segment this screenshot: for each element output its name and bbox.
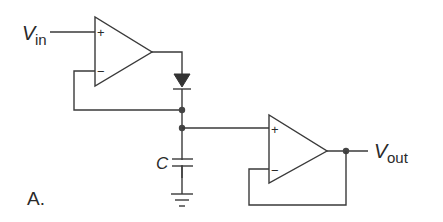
opamp-2-feedback-wire (249, 151, 346, 205)
vin-label-sub: in (35, 31, 47, 48)
vout-label-sub: out (387, 149, 409, 166)
opamp-2: + − (269, 115, 327, 183)
figure-label: A. (27, 188, 45, 209)
diode-icon (173, 74, 191, 89)
opamp-1: + − (95, 17, 152, 86)
opamp-2-plus: + (271, 122, 279, 137)
junction-dot-feedback (179, 107, 185, 113)
opamp-1-plus: + (97, 25, 105, 40)
opamp-1-feedback-wire (74, 71, 182, 110)
opamp-1-minus: − (97, 64, 105, 79)
peak-detector-schematic: V in + − C + − (0, 0, 443, 222)
ground-icon (171, 194, 193, 206)
capacitor-label: C (156, 154, 169, 173)
opamp-1-output-wire (152, 52, 182, 74)
opamp-2-minus: − (271, 163, 279, 178)
